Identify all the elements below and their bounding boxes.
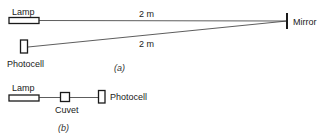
lamp-label-b: Lamp [12, 83, 35, 93]
panel-a: Lamp Photocell Mirror 2 m 2 m (a) [7, 7, 317, 73]
cuvet-label: Cuvet [55, 105, 79, 115]
distance-lower-label: 2 m [139, 39, 154, 49]
photocell-shape-a [21, 40, 28, 53]
photocell-label-b: Photocell [110, 92, 147, 102]
caption-b: (b) [58, 123, 69, 133]
panel-b: Lamp Cuvet Photocell (b) [9, 83, 147, 133]
lamp-shape-a [9, 18, 39, 24]
beam-lower [28, 21, 287, 47]
optics-diagram: Lamp Photocell Mirror 2 m 2 m (a) Lamp C… [0, 0, 325, 138]
cuvet-shape [61, 93, 70, 102]
lamp-shape-b [9, 95, 39, 101]
caption-a: (a) [114, 63, 125, 73]
photocell-shape-b [99, 91, 106, 104]
mirror-label: Mirror [293, 17, 317, 27]
photocell-label-a: Photocell [7, 59, 44, 69]
lamp-label-a: Lamp [12, 7, 35, 17]
distance-upper-label: 2 m [139, 9, 154, 19]
beam-upper [39, 21, 287, 22]
